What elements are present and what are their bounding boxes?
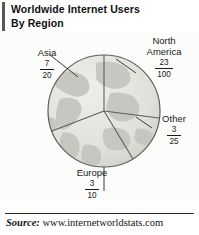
slice-value-other-denominator: 25: [167, 137, 180, 147]
slice-value-other: 3 25: [167, 125, 180, 146]
slice-value-europe-denominator: 10: [85, 191, 98, 201]
source-url: www.internetworldstats.com: [42, 217, 163, 228]
title-line-2: By Region: [11, 16, 193, 30]
slice-value-north-america-denominator: 100: [155, 70, 173, 80]
source-block: Source: www.internetworldstats.com: [0, 213, 199, 235]
slice-value-asia-denominator: 20: [40, 71, 53, 81]
slice-value-north-america: 23 100: [155, 58, 173, 79]
slice-label-europe-name: Europe: [64, 167, 120, 178]
title-line-1: Worldwide Internet Users: [11, 3, 140, 15]
slice-label-north-america: North America 23 100: [134, 35, 194, 81]
source-divider: [5, 213, 194, 214]
page-title: Worldwide Internet Users By Region: [11, 2, 193, 30]
slice-label-asia: Asia 7 20: [24, 47, 70, 82]
slice-label-asia-name: Asia: [24, 47, 70, 58]
slice-value-europe: 3 10: [85, 179, 98, 200]
slice-value-europe-numerator: 3: [85, 179, 98, 189]
source-label: Source:: [6, 217, 40, 228]
slice-label-other-name: Other: [152, 113, 196, 124]
figure-worldwide-internet-users: Worldwide Internet Users By Region: [0, 0, 199, 235]
pie-chart-panel: Asia 7 20 North America 23 100 Other 3 2…: [0, 33, 199, 207]
chart-title-block: Worldwide Internet Users By Region: [0, 0, 199, 33]
slice-label-north-america-name-line1: North: [134, 35, 194, 46]
slice-value-other-numerator: 3: [167, 125, 180, 135]
slice-value-asia: 7 20: [40, 59, 53, 80]
source-text: Source: www.internetworldstats.com: [6, 217, 196, 228]
slice-value-north-america-numerator: 23: [155, 58, 173, 68]
slice-value-asia-numerator: 7: [40, 59, 53, 69]
slice-label-north-america-name-line2: America: [134, 46, 194, 57]
slice-label-europe: Europe 3 10: [64, 167, 120, 202]
title-accent-bar: [2, 2, 5, 31]
slice-label-other: Other 3 25: [152, 113, 196, 148]
